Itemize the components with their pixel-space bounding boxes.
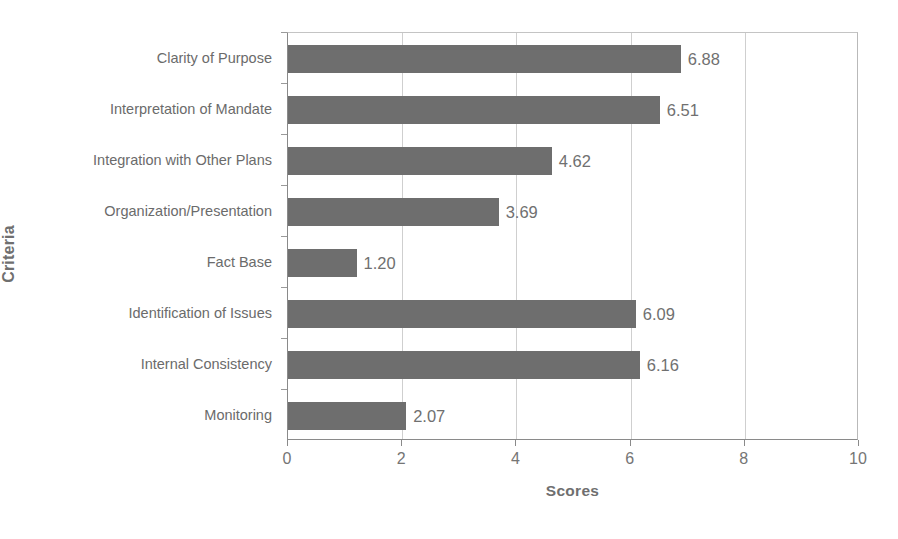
x-axis-title: Scores [287, 482, 858, 500]
bar [288, 198, 499, 226]
bar [288, 300, 636, 328]
x-axis-tick-label: 4 [495, 450, 535, 468]
bar-value-label: 3.69 [499, 198, 538, 226]
x-axis-tick [858, 440, 859, 446]
y-axis-tick [281, 185, 287, 186]
bar [288, 45, 681, 73]
x-axis-tick-label: 8 [724, 450, 764, 468]
category-label: Identification of Issues [40, 305, 272, 321]
x-axis-tick [287, 440, 288, 446]
bar-value-label: 1.20 [357, 249, 396, 277]
bar [288, 96, 660, 124]
bar-value-label: 6.51 [660, 96, 699, 124]
bar-value-label: 6.88 [681, 45, 720, 73]
x-axis-tick [744, 440, 745, 446]
category-label: Organization/Presentation [40, 203, 272, 219]
gridline [745, 33, 746, 439]
category-label: Integration with Other Plans [40, 152, 272, 168]
x-axis-tick-label: 2 [381, 450, 421, 468]
y-axis-tick [281, 83, 287, 84]
y-axis-tick [281, 134, 287, 135]
y-axis-tick [281, 389, 287, 390]
y-axis-tick [281, 32, 287, 33]
bar-chart: Criteria Clarity of PurposeInterpretatio… [0, 0, 898, 539]
category-label: Clarity of Purpose [40, 50, 272, 66]
category-label: Internal Consistency [40, 356, 272, 372]
plot-area: 6.886.514.623.691.206.096.162.07 [287, 32, 858, 440]
bar-value-label: 6.09 [636, 300, 675, 328]
x-axis-tick-label: 0 [267, 450, 307, 468]
category-label-column: Clarity of PurposeInterpretation of Mand… [40, 32, 272, 440]
y-axis-tick [281, 338, 287, 339]
category-label: Monitoring [40, 407, 272, 423]
y-axis-tick [281, 287, 287, 288]
bar-value-label: 6.16 [640, 351, 679, 379]
y-axis-tick [281, 236, 287, 237]
bar-value-label: 4.62 [552, 147, 591, 175]
x-axis-tick-label: 6 [610, 450, 650, 468]
bar-value-label: 2.07 [406, 402, 445, 430]
y-axis-title: Criteria [0, 184, 18, 324]
category-label: Interpretation of Mandate [40, 101, 272, 117]
x-axis-tick [515, 440, 516, 446]
x-axis-tick-label: 10 [838, 450, 878, 468]
bar [288, 351, 640, 379]
bar [288, 249, 357, 277]
bar [288, 402, 406, 430]
x-axis-tick [630, 440, 631, 446]
x-axis-tick [401, 440, 402, 446]
category-label: Fact Base [40, 254, 272, 270]
bar [288, 147, 552, 175]
